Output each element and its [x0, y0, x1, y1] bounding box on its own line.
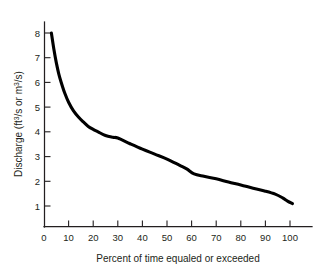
- flow-duration-chart: 8 7 6 5 4 3 2 1 0 10 20 30: [0, 0, 324, 277]
- x-tick-label: 70: [211, 232, 222, 243]
- y-tick-label: 6: [35, 77, 40, 88]
- x-tick-label: 50: [162, 232, 173, 243]
- y-axis-title: Discharge (ft3/s or m3/s): [13, 71, 24, 177]
- x-tick-label: 100: [282, 232, 298, 243]
- x-tick-label: 90: [260, 232, 271, 243]
- x-tick-label: 60: [186, 232, 197, 243]
- flow-duration-curve: [51, 33, 292, 204]
- y-tick-label: 5: [35, 102, 40, 113]
- y-tick-marks: [45, 33, 51, 206]
- y-tick-label: 7: [35, 52, 40, 63]
- x-tick-label: 80: [236, 232, 247, 243]
- y-tick-label: 2: [35, 176, 40, 187]
- x-tick-label: 30: [113, 232, 124, 243]
- y-axis-title-post: /s): [13, 71, 24, 82]
- x-tick-labels: 0 10 20 30 40 50 60 70 80 90 100: [41, 232, 298, 243]
- y-tick-label: 3: [35, 151, 40, 162]
- y-tick-label: 4: [35, 126, 40, 137]
- x-tick-marks: [69, 221, 290, 227]
- y-tick-labels: 8 7 6 5 4 3 2 1: [35, 28, 40, 212]
- y-axis-title-mid: /s or m: [13, 86, 24, 117]
- chart-figure: 8 7 6 5 4 3 2 1 0 10 20 30: [0, 0, 324, 277]
- y-axis-title-pre: Discharge (ft: [13, 120, 24, 177]
- y-tick-label: 1: [35, 201, 40, 212]
- x-axis-title: Percent of time equaled or exceeded: [96, 253, 259, 264]
- x-tick-label: 10: [63, 232, 74, 243]
- x-tick-label: 20: [88, 232, 99, 243]
- x-tick-label: 0: [41, 232, 46, 243]
- y-tick-label: 8: [35, 28, 40, 39]
- x-tick-label: 40: [137, 232, 148, 243]
